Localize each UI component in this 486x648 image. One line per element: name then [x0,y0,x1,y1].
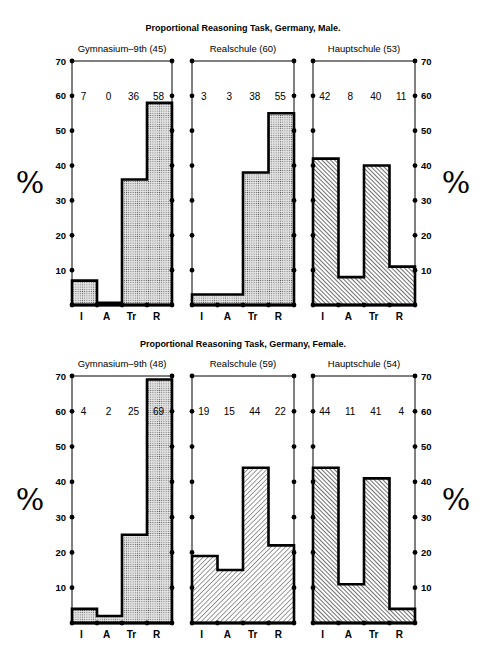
tick-dot [266,303,271,308]
tick-dot [170,621,175,626]
tick-dot [190,444,195,449]
tick-dot [292,233,297,238]
category-label: Tr [127,629,137,640]
category-label: R [396,629,404,640]
y-axis-label-right: % [442,165,471,200]
tick-dot [170,444,175,449]
category-label: Tr [248,311,258,322]
tick-dot [292,479,297,484]
y-tick-label: 40 [55,476,66,487]
tick-dot [70,479,75,484]
value-label: 22 [275,406,287,417]
value-label: 7 [81,91,87,102]
tick-dot [70,585,75,590]
tick-dot [190,409,195,414]
panel-title: Hauptschule (54) [328,358,400,369]
tick-dot [190,128,195,133]
value-label: 19 [198,406,210,417]
category-label: Tr [248,629,258,640]
y-tick-label: 60 [421,90,432,101]
y-tick-label: 10 [421,265,432,276]
tick-dot [311,409,316,414]
y-tick-label: 20 [421,547,432,558]
value-label: 42 [319,91,331,102]
tick-dot [413,268,418,273]
tick-dot [413,163,418,168]
tick-dot [311,621,316,626]
tick-dot [292,303,297,308]
tick-dot [311,59,316,64]
chart-title: Proportional Reasoning Task, Germany, Ma… [145,23,340,33]
y-axis-label-left: % [16,165,45,200]
y-tick-label: 30 [55,512,66,523]
tick-dot [70,303,75,308]
y-tick-label: 60 [421,406,432,417]
tick-dot [413,479,418,484]
tick-dot [311,128,316,133]
tick-dot [190,233,195,238]
tick-dot [70,444,75,449]
tick-dot [70,268,75,273]
value-label: 41 [370,406,382,417]
tick-dot [413,128,418,133]
tick-dot [413,303,418,308]
tick-dot [70,93,75,98]
tick-dot [170,585,175,590]
value-label: 3 [226,91,232,102]
tick-dot [311,198,316,203]
bar-series [192,468,294,623]
tick-dot [190,93,195,98]
category-label: A [345,311,352,322]
tick-dot [190,374,195,379]
tick-dot [170,198,175,203]
tick-dot [292,621,297,626]
category-label: Tr [369,629,379,640]
value-label: 15 [224,406,236,417]
tick-dot [145,303,150,308]
category-label: A [345,629,352,640]
y-tick-label: 40 [421,476,432,487]
tick-dot [292,93,297,98]
tick-dot [70,59,75,64]
tick-dot [70,621,75,626]
y-tick-label: 70 [55,371,66,382]
value-label: 0 [106,91,112,102]
tick-dot [190,303,195,308]
tick-dot [70,374,75,379]
y-tick-label: 40 [55,160,66,171]
tick-dot [311,585,316,590]
tick-dot [292,128,297,133]
tick-dot [311,93,316,98]
value-label: 4 [81,406,87,417]
tick-dot [70,233,75,238]
tick-dot [362,621,367,626]
category-label: I [200,311,203,322]
category-label: R [275,629,283,640]
tick-dot [362,303,367,308]
tick-dot [387,621,392,626]
tick-dot [170,515,175,520]
tick-dot [292,515,297,520]
tick-dot [170,550,175,555]
y-tick-label: 30 [55,195,66,206]
tick-dot [70,128,75,133]
tick-dot [292,59,297,64]
panel-title: Hauptschule (53) [328,43,400,54]
tick-dot [190,550,195,555]
value-label: 25 [128,406,140,417]
y-tick-label: 10 [421,582,432,593]
tick-dot [292,444,297,449]
tick-dot [387,303,392,308]
y-tick-label: 20 [55,547,66,558]
y-tick-label: 50 [55,125,66,136]
category-label: Tr [127,311,137,322]
category-label: A [103,311,110,322]
value-label: 3 [201,91,207,102]
tick-dot [292,268,297,273]
y-tick-label: 10 [55,265,66,276]
y-tick-label: 60 [55,90,66,101]
tick-dot [170,59,175,64]
tick-dot [190,585,195,590]
panel-title: Realschule (59) [210,358,277,369]
proportional-reasoning-chart: Proportional Reasoning Task, Germany, Ma… [0,0,486,648]
